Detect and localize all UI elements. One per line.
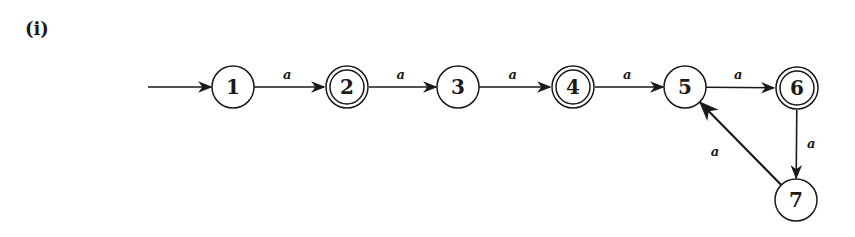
transition-6-7: a — [796, 110, 815, 178]
state-label: 2 — [340, 75, 354, 99]
transition-label: a — [283, 67, 291, 82]
state-1: 1 — [212, 66, 254, 108]
state-label: 7 — [789, 188, 803, 212]
transition-label: a — [807, 136, 815, 151]
transition-3-4: a — [479, 67, 550, 87]
automaton-diagram: aaaaaaa 1234567 — [0, 0, 855, 237]
state-label: 5 — [678, 75, 692, 99]
state-3: 3 — [437, 66, 479, 108]
transition-label: a — [623, 67, 631, 82]
state-2: 2 — [326, 66, 368, 108]
state-5: 5 — [664, 66, 706, 108]
transition-label: a — [711, 144, 719, 159]
transition-1-2: a — [254, 67, 324, 87]
transition-label: a — [397, 67, 405, 82]
transition-2-3: a — [369, 67, 436, 87]
transition-4-5: a — [595, 67, 663, 87]
transition-label: a — [734, 67, 742, 82]
state-label: 6 — [790, 76, 804, 100]
transition-5-6: a — [706, 67, 774, 88]
transition-7-5: a — [700, 103, 781, 185]
states-layer: 1234567 — [212, 66, 818, 221]
state-7: 7 — [775, 179, 817, 221]
state-label: 4 — [566, 75, 580, 99]
state-label: 3 — [451, 75, 465, 99]
state-label: 1 — [226, 75, 240, 99]
transition-label: a — [509, 67, 517, 82]
state-4: 4 — [552, 66, 594, 108]
state-6: 6 — [776, 67, 818, 109]
